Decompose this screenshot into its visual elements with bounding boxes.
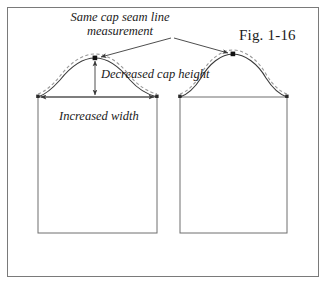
leader-line-left	[101, 38, 171, 57]
left-cap-apex-dot	[93, 56, 98, 61]
leader-line-right	[174, 38, 228, 53]
figure-number-label: Fig. 1-16	[239, 27, 296, 44]
label-same-cap-seam-line-text-2: measurement	[0, 24, 240, 38]
left-cap-end-dot	[155, 95, 158, 98]
right-cap-start-dot	[178, 95, 181, 98]
left-cap-start-dot	[36, 95, 39, 98]
label-increased-width: Increased width	[59, 109, 139, 123]
label-decreased-cap-height: Decreased cap height	[101, 67, 210, 81]
label-same-cap-seam-line: Same cap seam line measurement	[0, 10, 240, 39]
right-cap-apex-dot	[231, 52, 236, 57]
right-sleeve-body	[180, 97, 287, 233]
figure-illustration: Same cap seam line measurement Fig. 1-16…	[0, 0, 327, 285]
right-cap-end-dot	[285, 95, 288, 98]
label-same-cap-seam-line-text-1: Same cap seam line	[71, 10, 170, 24]
